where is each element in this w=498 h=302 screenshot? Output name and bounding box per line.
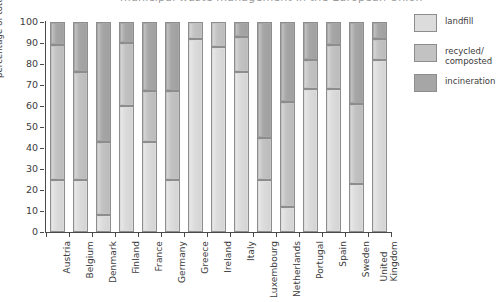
- bar-segment-incineration[interactable]: [280, 22, 295, 102]
- bar-segment-recycled[interactable]: [280, 102, 295, 207]
- y-tick-mark: [40, 169, 44, 170]
- bar-segment-landfill[interactable]: [211, 47, 226, 232]
- y-axis-tick: 50: [0, 127, 44, 128]
- x-tick-mark: [92, 233, 93, 237]
- bar-segment-incineration[interactable]: [234, 22, 249, 37]
- bar-stack[interactable]: [165, 22, 180, 232]
- bar-segment-recycled[interactable]: [73, 72, 88, 179]
- bar-segment-landfill[interactable]: [257, 180, 272, 233]
- bar-segment-landfill[interactable]: [349, 184, 364, 232]
- bar-stack[interactable]: [73, 22, 88, 232]
- legend-swatch-landfill: [414, 14, 437, 32]
- y-tick-mark: [40, 211, 44, 212]
- y-axis-tick: 10: [0, 211, 44, 212]
- bar-segment-incineration[interactable]: [50, 22, 65, 45]
- bar-segment-recycled[interactable]: [234, 37, 249, 73]
- bar-stack[interactable]: [280, 22, 295, 232]
- y-tick-mark: [40, 127, 44, 128]
- legend-item-recycled[interactable]: recycled/ composted: [414, 44, 498, 65]
- legend-swatch-incineration: [414, 74, 437, 92]
- y-tick-label: 50: [26, 120, 38, 133]
- bar-segment-incineration[interactable]: [372, 22, 387, 39]
- bar-segment-recycled[interactable]: [303, 60, 318, 89]
- bar-stack[interactable]: [257, 22, 272, 232]
- bar-segment-incineration[interactable]: [257, 22, 272, 138]
- bar-stack[interactable]: [372, 22, 387, 232]
- chart-page: municipal waste management in the Europe…: [0, 0, 498, 302]
- bar-segment-recycled[interactable]: [211, 22, 226, 47]
- legend-label-landfill: landfill: [445, 16, 473, 26]
- x-tick-mark: [161, 233, 162, 237]
- bar-segment-recycled[interactable]: [372, 39, 387, 60]
- y-tick-label: 60: [26, 99, 38, 112]
- x-tick-mark: [46, 233, 47, 237]
- bar-stack[interactable]: [326, 22, 341, 232]
- x-tick-mark: [253, 233, 254, 237]
- x-category-label: Portugal: [315, 241, 325, 279]
- bar-segment-incineration[interactable]: [142, 22, 157, 91]
- x-tick-mark: [368, 233, 369, 237]
- bar-segment-incineration[interactable]: [96, 22, 111, 142]
- bar-stack[interactable]: [234, 22, 249, 232]
- bar-segment-recycled[interactable]: [50, 45, 65, 179]
- bar-segment-recycled[interactable]: [142, 91, 157, 141]
- bar-segment-landfill[interactable]: [188, 39, 203, 232]
- bar-segment-landfill[interactable]: [303, 89, 318, 232]
- bar-stack[interactable]: [119, 22, 134, 232]
- y-tick-label: 10: [26, 204, 38, 217]
- y-axis-tick: 20: [0, 190, 44, 191]
- y-axis-tick: 70: [0, 85, 44, 86]
- plot-area: [46, 22, 391, 232]
- y-tick-label: 20: [26, 183, 38, 196]
- bar-segment-incineration[interactable]: [73, 22, 88, 72]
- x-category-label: Denmark: [108, 241, 118, 283]
- bar-segment-landfill[interactable]: [50, 180, 65, 233]
- bar-segment-recycled[interactable]: [188, 22, 203, 39]
- bar-segment-landfill[interactable]: [165, 180, 180, 233]
- x-tick-mark: [276, 233, 277, 237]
- bar-segment-landfill[interactable]: [280, 207, 295, 232]
- bar-segment-landfill[interactable]: [372, 60, 387, 232]
- x-tick-mark: [69, 233, 70, 237]
- x-tick-mark: [299, 233, 300, 237]
- bar-stack[interactable]: [303, 22, 318, 232]
- bar-segment-landfill[interactable]: [96, 215, 111, 232]
- bar-segment-recycled[interactable]: [119, 43, 134, 106]
- bar-stack[interactable]: [50, 22, 65, 232]
- bar-segment-incineration[interactable]: [165, 22, 180, 91]
- bar-stack[interactable]: [349, 22, 364, 232]
- bar-segment-landfill[interactable]: [142, 142, 157, 232]
- chart-title: municipal waste management in the Europe…: [120, 0, 423, 4]
- x-axis-line: [45, 232, 392, 233]
- bar-stack[interactable]: [142, 22, 157, 232]
- chart-title-strip: municipal waste management in the Europe…: [0, 0, 498, 9]
- bar-segment-recycled[interactable]: [165, 91, 180, 179]
- legend-item-landfill[interactable]: landfill: [414, 14, 498, 35]
- y-axis-tick: 100: [0, 22, 44, 23]
- y-axis-tick: 80: [0, 64, 44, 65]
- bar-segment-recycled[interactable]: [349, 104, 364, 184]
- bar-segment-recycled[interactable]: [257, 138, 272, 180]
- bar-segment-landfill[interactable]: [73, 180, 88, 233]
- bar-segment-incineration[interactable]: [349, 22, 364, 104]
- bar-segment-landfill[interactable]: [119, 106, 134, 232]
- y-tick-mark: [40, 64, 44, 65]
- bar-stack[interactable]: [188, 22, 203, 232]
- x-category-label: Luxembourg: [269, 241, 279, 298]
- bar-stack[interactable]: [96, 22, 111, 232]
- y-axis-tick: 40: [0, 148, 44, 149]
- bar-segment-recycled[interactable]: [326, 45, 341, 89]
- legend-item-incineration[interactable]: incineration: [414, 74, 498, 95]
- x-tick-mark: [138, 233, 139, 237]
- bar-segment-incineration[interactable]: [326, 22, 341, 45]
- bar-stack[interactable]: [211, 22, 226, 232]
- y-axis-title: percentage of total waste: [0, 0, 4, 78]
- bar-segment-incineration[interactable]: [119, 22, 134, 43]
- bar-segment-landfill[interactable]: [234, 72, 249, 232]
- bar-segment-landfill[interactable]: [326, 89, 341, 232]
- bar-segment-recycled[interactable]: [96, 142, 111, 216]
- bar-segment-incineration[interactable]: [303, 22, 318, 60]
- y-tick-mark: [40, 190, 44, 191]
- legend-swatch-recycled: [414, 44, 437, 62]
- y-tick-mark: [40, 22, 44, 23]
